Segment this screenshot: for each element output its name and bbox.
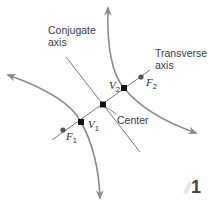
center-label: Center <box>117 114 149 126</box>
left-branch-curve <box>8 75 100 198</box>
conjugate-axis-label-line2: axis <box>48 36 67 48</box>
f2-label: F2 <box>145 76 157 91</box>
figure-number: 1 <box>191 177 201 197</box>
focus-f2-point <box>138 74 143 79</box>
transverse-axis-label-line2: axis <box>155 59 174 71</box>
hyperbola-diagram: Conjugate axis Transverse axis Center V2… <box>0 0 211 202</box>
center-point <box>100 102 106 108</box>
focus-f1-point <box>60 127 65 132</box>
v1-label: V1 <box>88 118 99 133</box>
transverse-axis-label-line1: Transverse <box>155 47 207 59</box>
f1-label: F1 <box>65 130 77 145</box>
vertex-v1-point <box>78 119 84 125</box>
conjugate-axis-label-line1: Conjugate <box>48 24 96 36</box>
vertex-v2-point <box>121 85 127 91</box>
v2-label: V2 <box>109 79 120 94</box>
